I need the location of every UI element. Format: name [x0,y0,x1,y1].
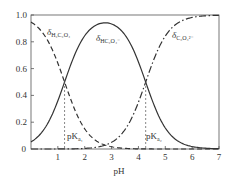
x-tick-label: 4 [136,152,141,162]
y-tick-label: 0.2 [16,117,27,127]
y-tick-label: 0.8 [16,37,28,47]
label-pka1: pKa₁ [67,131,83,142]
x-tick-label: 2 [82,152,87,162]
x-tick-label: 7 [217,152,222,162]
speciation-chart: 123456700.20.40.60.81.0 pH δH₂C₂O₄ δHC₂O… [0,0,233,180]
x-tick-label: 1 [56,152,61,162]
x-tick-label: 3 [109,152,114,162]
label-hc2o4: δHC₂O₄⁻ [96,33,120,44]
x-axis-label: pH [114,166,126,176]
x-tick-label: 6 [190,152,195,162]
y-tick-label: 0.4 [16,90,28,100]
label-c2o4: δC₂O₄²⁻ [172,30,194,41]
label-h2c2o4: δH₂C₂O₄ [47,27,70,38]
y-tick-label: 0 [22,144,27,154]
y-tick-label: 1.0 [16,10,28,20]
y-tick-label: 0.6 [16,64,28,74]
label-pka2: pKa₂ [146,131,162,142]
x-tick-label: 5 [163,152,168,162]
